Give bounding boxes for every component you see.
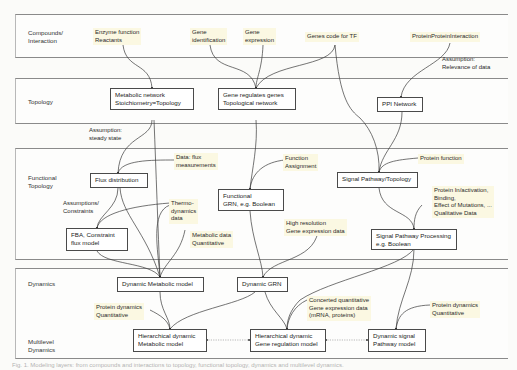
layer-label-dynamics: Dynamics [28, 280, 55, 288]
note-assumption-relevance: Assumption: Relevance of data [442, 56, 490, 71]
input-gene-expression: Gene expression [243, 28, 276, 45]
note-concerted-quantitative: Concerted quantitative Gene expression d… [307, 296, 371, 321]
node-ppi-network: PPI Network [377, 97, 423, 112]
node-functional-grn: Functional GRN, e.g. Boolean [218, 189, 284, 211]
node-signal-pathway-topology: Signal Pathway/Topology [337, 172, 418, 188]
note-assumption-steady-state: Assumption: steady state [89, 127, 122, 142]
note-data-flux: Data: flux measurements [174, 153, 218, 170]
note-protein-dynamics-left: Protein dynamics Quantitative [94, 303, 144, 320]
node-hierarchical-gene-regulation-model: Hierarchical dynamic Gene regulation mod… [250, 329, 326, 352]
input-genes-code-tf: Genes code for TF [305, 32, 359, 42]
node-dynamic-grn: Dynamic GRN [237, 277, 288, 292]
note-metabolic-data: Metabolic data Quantitative [190, 231, 233, 248]
layer-label-multilevel: Multilevel Dynamics [28, 338, 55, 354]
node-flux-distribution: Flux distribution [90, 173, 148, 188]
input-protein-protein-interaction: ProteinProteinInteraction [410, 32, 480, 42]
note-thermodynamics: Thermo- dynamics data [169, 199, 198, 224]
layer-label-topology: Topology [28, 98, 53, 106]
layer-label-compounds: Compounds/ Interaction [28, 29, 63, 45]
input-enzyme-function: Enzyme function Reactants [93, 28, 141, 45]
figure-caption: Fig. 1. Modeling layers: from compounds … [12, 361, 507, 370]
node-dynamic-signal-pathway-model: Dynamic signal Pathway model [368, 329, 426, 352]
note-assumptions-constraints: Assumptions/ Constraints [63, 200, 99, 215]
node-hierarchical-metabolic-model: Hierarchical dynamic Metabolic model [133, 329, 207, 352]
note-protein-function: Protein function [418, 154, 464, 164]
node-signal-pathway-processing: Signal Pathway Processing e.g. Boolean [371, 229, 457, 250]
note-high-resolution: High resolution Gene expression data [284, 219, 347, 236]
note-protein-activation: Protein In/activation, Binding, Effect o… [432, 186, 494, 218]
node-gene-regulates-genes: Gene regulates genes Topological network [218, 88, 296, 110]
node-metabolic-network: Metabolic network Stoichiometry=Topology [110, 88, 194, 110]
node-fba-constraint: FBA, Constraint flux model [66, 228, 128, 251]
input-gene-identification: Gene identification [190, 28, 227, 45]
node-dynamic-metabolic-model: Dynamic Metabolic model [117, 277, 204, 292]
diagram-canvas: Compounds/ Interaction Topology Function… [0, 0, 517, 370]
layer-label-functional-topology: Functional Topology [28, 174, 57, 190]
note-function-assignment: Function Assignment [283, 154, 318, 171]
note-protein-dynamics-right: Protein dynamics Quantitative [430, 301, 480, 318]
